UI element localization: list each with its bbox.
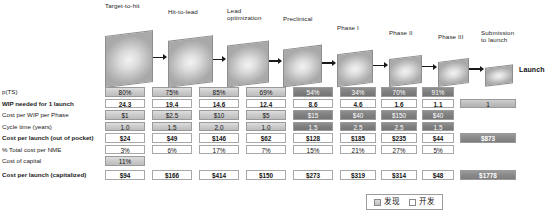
pipeline-stage-block-1[interactable] [105,30,153,88]
pipeline-stage-label-3: Lead optimization [227,7,262,21]
table-cell[interactable]: $150 [246,170,286,180]
table-cell[interactable]: 19.4 [152,99,192,109]
table-row-label-8: Cost per launch (capitalized) [2,171,86,179]
table-cell[interactable]: $235 [381,133,417,143]
table-cell[interactable]: 5% [422,145,454,155]
table-row-label-4: Cycle time (years) [2,123,52,131]
pipeline-arrow-2 [213,59,225,61]
table-cell[interactable]: $166 [152,170,192,180]
table-cell[interactable]: 70% [381,87,417,97]
table-cell[interactable]: 6% [152,145,192,155]
table-cell[interactable]: 21% [340,145,376,155]
table-cell[interactable]: 1.0 [105,122,145,132]
pipeline-stage-block-2[interactable] [168,35,213,88]
pipeline-arrow-5 [373,65,387,67]
table-cell[interactable]: 54% [293,87,333,97]
table-cell[interactable]: 80% [105,87,145,97]
table-cell[interactable]: $2.5 [152,110,192,120]
pipeline-stage-block-7[interactable] [438,58,469,87]
table-cell[interactable]: $414 [199,170,239,180]
table-cell[interactable]: $24 [105,133,145,143]
table-cell[interactable]: $314 [381,170,417,180]
table-cell[interactable]: 85% [199,87,239,97]
pipeline-arrow-1 [153,57,166,59]
table-cell[interactable]: $44 [422,133,454,143]
pipeline-arrow-4 [322,62,335,64]
table-cell[interactable]: $185 [340,133,376,143]
table-total-cell[interactable]: $1778 [460,170,516,180]
table-cell[interactable]: 1.5 [152,122,192,132]
pipeline-stage-block-4[interactable] [283,45,322,88]
pipeline-arrow-6 [422,66,436,68]
table-cell[interactable]: 15% [293,145,333,155]
table-cell[interactable]: 17% [199,145,239,155]
table-cell[interactable]: $150 [381,110,417,120]
table-cell[interactable]: $94 [105,170,145,180]
table-cell[interactable]: $146 [199,133,239,143]
table-cell[interactable]: 4.6 [340,99,376,109]
table-cell[interactable]: 11% [105,156,145,166]
table-cell[interactable]: $1 [105,110,145,120]
metrics-table: p(TS)80%75%85%69%54%34%70%91%WIP needed … [0,85,522,190]
table-cell[interactable]: 14.6 [199,99,239,109]
table-cell[interactable]: 1.6 [381,99,417,109]
table-cell[interactable]: $48 [422,170,454,180]
pipeline-stage-block-6[interactable] [389,55,422,87]
pipeline-arrow-7 [469,68,483,70]
pipeline-stage-label-2: Hit-to-lead [168,8,198,15]
table-row-label-3: Cost per WIP per Phase [2,111,69,119]
pipeline-stage-label-4: Preclinical [283,15,313,22]
table-cell[interactable]: 75% [152,87,192,97]
pipeline-arrow-3 [269,60,281,62]
pipeline-stage-block-5[interactable] [337,50,373,87]
pipeline-diagram: Target-to-hitHit-to-leadLead optimizatio… [105,2,522,85]
legend-item-1[interactable]: 发现 [374,198,400,206]
table-cell[interactable]: $5 [246,110,286,120]
table-total-cell[interactable]: $873 [460,133,516,143]
table-cell[interactable]: $15 [293,110,333,120]
pipeline-stage-label-6: Phase II [389,29,413,36]
table-cell[interactable]: $319 [340,170,376,180]
table-cell[interactable]: $62 [246,133,286,143]
legend-label-2: 开发 [419,198,435,206]
table-total-cell[interactable]: 1 [460,99,516,109]
table-row-label-1: p(TS) [2,88,17,96]
legend-swatch-dev-icon [409,199,416,206]
pipeline-stage-block-3[interactable] [227,40,269,87]
table-cell[interactable]: $49 [152,133,192,143]
table-cell[interactable]: 1.5 [422,122,454,132]
table-cell[interactable]: $128 [293,133,333,143]
table-cell[interactable]: 24.3 [105,99,145,109]
table-cell[interactable]: 1.5 [293,122,333,132]
table-row-label-5: Cost per launch (out of pocket) [2,134,93,142]
pipeline-stage-label-7: Phase III [438,33,464,40]
launch-label: Launch [519,66,545,73]
table-cell[interactable]: 91% [422,87,454,97]
table-cell[interactable]: 34% [340,87,376,97]
table-cell[interactable]: 1.1 [422,99,454,109]
table-cell[interactable]: 2.5 [381,122,417,132]
pipeline-stage-block-8[interactable] [485,64,513,86]
table-cell[interactable]: 2.5 [340,122,376,132]
pipeline-stage-label-5: Phase I [337,24,359,31]
table-cell[interactable]: 8.6 [293,99,333,109]
table-cell[interactable]: 3% [105,145,145,155]
table-cell[interactable]: $10 [199,110,239,120]
table-cell[interactable]: $40 [422,110,454,120]
legend-swatch-disc-icon [374,199,381,206]
table-cell[interactable]: $273 [293,170,333,180]
legend-item-2[interactable]: 开发 [409,198,435,206]
table-cell[interactable]: 69% [246,87,286,97]
pipeline-stage-label-1: Target-to-hit [105,2,140,9]
table-cell[interactable]: 2.0 [199,122,239,132]
table-cell[interactable]: 12.4 [246,99,286,109]
table-row-label-6: % Total cost per NME [2,146,61,154]
table-cell[interactable]: $40 [340,110,376,120]
table-row-label-2: WIP needed for 1 launch [2,100,74,108]
pipeline-stage-label-8: Submission to launch [481,29,514,43]
table-cell[interactable]: 7% [246,145,286,155]
table-cell[interactable]: 1.0 [246,122,286,132]
legend-label-1: 发现 [384,198,400,206]
table-cell[interactable]: 27% [381,145,417,155]
